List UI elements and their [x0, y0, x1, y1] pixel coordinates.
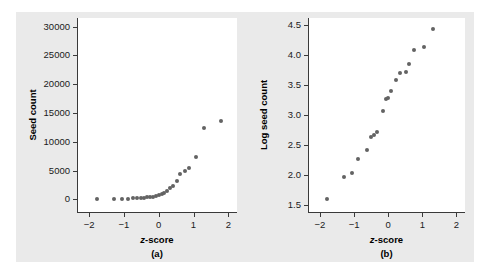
- x-axis-title-b: z-score: [278, 234, 490, 245]
- y-axis-title-b: Log seed count: [258, 80, 269, 150]
- y-tick-mark: [73, 142, 77, 143]
- y-tick-label: 2.0: [288, 170, 301, 180]
- x-axis-title-b-rest: -score: [375, 234, 404, 245]
- data-point: [183, 169, 187, 173]
- y-tick-label: 1.5: [288, 200, 301, 210]
- x-tick-label: 2: [208, 220, 248, 230]
- y-tick-mark: [73, 55, 77, 56]
- y-tick-label: 0: [65, 194, 70, 204]
- data-point: [126, 197, 130, 201]
- y-tick-label: 25000: [44, 50, 70, 60]
- y-tick-mark: [73, 84, 77, 85]
- x-tick-mark: [194, 213, 195, 217]
- data-point: [112, 197, 116, 201]
- y-tick-label: 30000: [44, 22, 70, 32]
- y-tick-mark: [304, 205, 308, 206]
- chart-panel-a: 050001000015000200002500030000 −2−1012 S…: [16, 12, 245, 262]
- y-tick-mark: [304, 25, 308, 26]
- y-tick-label: 10000: [44, 137, 70, 147]
- y-tick-mark: [73, 27, 77, 28]
- y-tick-label: 3.0: [288, 110, 301, 120]
- data-point: [381, 109, 385, 113]
- y-tick-mark: [73, 171, 77, 172]
- data-point: [202, 126, 206, 130]
- data-point: [398, 71, 402, 75]
- y-tick-mark: [304, 175, 308, 176]
- y-axis-title-a: Seed count: [27, 89, 38, 140]
- y-tick-label: 2.5: [288, 140, 301, 150]
- y-tick-label: 4.0: [288, 50, 301, 60]
- data-point: [120, 197, 124, 201]
- y-tick-mark: [73, 199, 77, 200]
- y-tick-mark: [304, 85, 308, 86]
- x-tick-mark: [456, 213, 457, 217]
- data-point: [356, 157, 360, 161]
- y-tick-label: 5000: [49, 166, 70, 176]
- data-point: [325, 197, 329, 201]
- data-point: [389, 89, 393, 93]
- data-point: [219, 119, 223, 123]
- y-axis-line: [77, 18, 78, 212]
- data-point: [342, 175, 346, 179]
- x-tick-mark: [354, 213, 355, 217]
- panel-caption-a: (a): [47, 248, 267, 259]
- y-tick-mark: [304, 55, 308, 56]
- plot-area-b: [308, 18, 465, 212]
- figure-container: 050001000015000200002500030000 −2−1012 S…: [16, 12, 474, 262]
- data-point: [412, 48, 416, 52]
- x-tick-mark: [89, 213, 90, 217]
- data-point: [407, 62, 411, 66]
- x-tick-mark: [422, 213, 423, 217]
- y-tick-label: 3.5: [288, 80, 301, 90]
- data-point: [404, 70, 408, 74]
- data-point: [431, 27, 435, 31]
- x-tick-mark: [320, 213, 321, 217]
- x-tick-mark: [124, 213, 125, 217]
- y-tick-label: 4.5: [288, 20, 301, 30]
- panel-caption-b: (b): [278, 248, 490, 259]
- data-point: [194, 155, 198, 159]
- x-axis-line: [77, 212, 237, 213]
- plot-area-a: [77, 18, 237, 212]
- data-point: [175, 179, 179, 183]
- x-tick-label: 2: [436, 220, 476, 230]
- data-point: [171, 184, 175, 188]
- x-axis-title-a: z-score: [47, 234, 267, 245]
- y-tick-mark: [304, 115, 308, 116]
- x-tick-mark: [159, 213, 160, 217]
- y-tick-label: 15000: [44, 108, 70, 118]
- y-axis-line: [308, 18, 309, 212]
- chart-panel-b: 1.52.02.53.03.54.04.5 −2−1012 Log seed c…: [245, 12, 474, 262]
- data-point: [375, 130, 379, 134]
- y-tick-label: 20000: [44, 79, 70, 89]
- x-tick-mark: [388, 213, 389, 217]
- x-tick-mark: [228, 213, 229, 217]
- y-tick-mark: [73, 113, 77, 114]
- x-axis-title-a-rest: -score: [145, 234, 174, 245]
- y-tick-mark: [304, 145, 308, 146]
- x-axis-line: [308, 212, 465, 213]
- data-point: [95, 197, 99, 201]
